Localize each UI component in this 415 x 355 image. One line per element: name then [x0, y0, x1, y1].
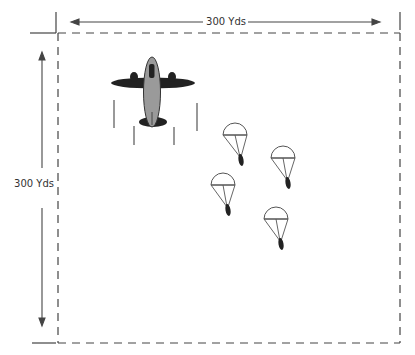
drop-zone-boundary: [58, 33, 400, 343]
horizontal-dimension-label: 300 Yds: [206, 16, 246, 27]
arrow-down-icon: [39, 318, 45, 326]
drop-zone-diagram: 300 Yds 300 Yds: [0, 0, 415, 355]
parachute-icon: [223, 123, 247, 166]
parachute-icon: [264, 207, 288, 250]
vertical-dimension: [39, 52, 45, 326]
parachutists: [211, 123, 295, 250]
arrow-up-icon: [39, 52, 45, 60]
airplane-icon: [111, 57, 197, 145]
parachute-icon: [271, 146, 295, 189]
parachute-icon: [211, 173, 235, 216]
arrow-left-icon: [71, 19, 79, 25]
arrow-right-icon: [372, 19, 380, 25]
vertical-dimension-label: 300 Yds: [14, 178, 54, 189]
